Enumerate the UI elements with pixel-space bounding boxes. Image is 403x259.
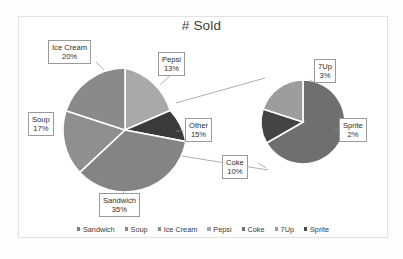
chart-legend: SandwichSoupIce CreamPepsiCoke7UpSprite xyxy=(18,222,388,236)
legend-item-label: Pepsi xyxy=(213,225,231,234)
legend-item-label: 7Up xyxy=(281,225,294,234)
legend-swatch-icon xyxy=(304,227,308,231)
callout-ice-cream-label: Ice Cream xyxy=(52,43,87,52)
callout-soup-value: 17% xyxy=(32,124,50,133)
legend-item[interactable]: Ice Cream xyxy=(158,225,198,234)
callout-7up-value: 3% xyxy=(318,71,332,80)
callout-sprite-label: Sprite xyxy=(343,121,363,130)
callout-pepsi-label: Pepsi xyxy=(162,55,181,64)
legend-swatch-icon xyxy=(242,227,246,231)
callout-soup-label: Soup xyxy=(32,115,50,124)
callout-7up-label: 7Up xyxy=(318,62,332,71)
callout-sandwich[interactable]: Sandwich 35% xyxy=(99,193,140,217)
legend-swatch-icon xyxy=(158,227,162,231)
callout-soup[interactable]: Soup 17% xyxy=(28,112,54,136)
callout-other[interactable]: Other 15% xyxy=(185,118,212,142)
legend-item[interactable]: Pepsi xyxy=(207,225,231,234)
callout-coke-label: Coke xyxy=(226,158,244,167)
legend-item[interactable]: Coke xyxy=(242,225,265,234)
secondary-pie xyxy=(261,80,345,164)
legend-swatch-icon xyxy=(125,227,129,231)
callout-sprite-value: 2% xyxy=(343,130,363,139)
legend-item[interactable]: Sandwich xyxy=(77,225,115,234)
legend-swatch-icon xyxy=(77,227,81,231)
legend-item-label: Soup xyxy=(131,225,148,234)
callout-ice-cream[interactable]: Ice Cream 20% xyxy=(48,40,91,64)
callout-ice-cream-value: 20% xyxy=(52,52,87,61)
legend-item[interactable]: Sprite xyxy=(304,225,329,234)
callout-pepsi[interactable]: Pepsi 13% xyxy=(158,52,185,76)
legend-item-label: Sandwich xyxy=(83,225,115,234)
callout-sandwich-label: Sandwich xyxy=(103,196,136,205)
callout-sandwich-value: 35% xyxy=(103,205,136,214)
legend-item-label: Sprite xyxy=(310,225,329,234)
legend-item[interactable]: 7Up xyxy=(275,225,294,234)
callout-pepsi-value: 13% xyxy=(162,64,181,73)
callout-other-value: 15% xyxy=(189,130,208,139)
callout-coke-value: 10% xyxy=(226,167,244,176)
primary-pie xyxy=(63,68,186,192)
legend-item-label: Ice Cream xyxy=(164,225,198,234)
callout-sprite[interactable]: Sprite 2% xyxy=(339,118,367,142)
callout-7up[interactable]: 7Up 3% xyxy=(314,59,336,83)
callout-other-label: Other xyxy=(189,121,208,130)
legend-swatch-icon xyxy=(275,227,279,231)
legend-swatch-icon xyxy=(207,227,211,231)
callout-coke[interactable]: Coke 10% xyxy=(222,155,248,179)
chart-container: # Sold xyxy=(0,0,403,259)
legend-item[interactable]: Soup xyxy=(125,225,148,234)
legend-item-label: Coke xyxy=(248,225,265,234)
